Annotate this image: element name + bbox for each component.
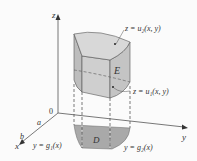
diagram-canvas: z x y 0 a b z = u₂(x, y) z = u₁(x, y) E … [0,0,197,161]
lower-curve-label: y = g₁(x) [32,141,62,150]
z-axis-arrow-icon [56,14,61,20]
x-tick-a: a [37,118,41,127]
top-surface-label: z = u₂(x, y) [124,24,161,33]
top-surface-point [114,43,116,45]
y-axis [58,113,184,127]
x-tick-b: b [20,132,24,141]
bottom-surface-label: z = u₁(x, y) [132,87,169,96]
solid-label: E [113,65,120,76]
z-axis-label: z [51,10,56,20]
x-axis-label: x [14,141,19,151]
region-label: D [92,135,100,145]
y-axis-arrow-icon [182,125,188,130]
region-d [74,125,130,149]
y-axis-label: y [181,132,186,142]
bottom-surface-point [112,86,114,88]
solid-e [74,32,130,98]
upper-curve-label: y = g₂(x) [123,143,153,152]
origin-label: 0 [49,107,53,116]
